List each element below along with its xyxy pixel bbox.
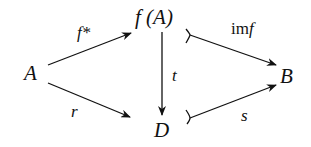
- label-s: s: [241, 107, 248, 124]
- mono-tail-icon: [186, 29, 190, 43]
- arrow-s: [186, 85, 276, 124]
- label-r: r: [71, 103, 78, 120]
- label-t: t: [172, 67, 177, 84]
- node-b: B: [280, 66, 293, 87]
- label-f-star: f*: [77, 24, 90, 41]
- arrow-r: [48, 83, 130, 117]
- label-f: f: [249, 19, 254, 38]
- node-f-of-a: f (A): [135, 7, 173, 28]
- label-im: im: [231, 19, 249, 38]
- mono-tail-icon: [186, 110, 190, 124]
- commutative-diagram: A f (A) B D f* r t imf s: [0, 0, 311, 147]
- node-a: A: [24, 63, 37, 84]
- node-d: D: [154, 120, 169, 141]
- label-im-f: imf: [231, 20, 254, 37]
